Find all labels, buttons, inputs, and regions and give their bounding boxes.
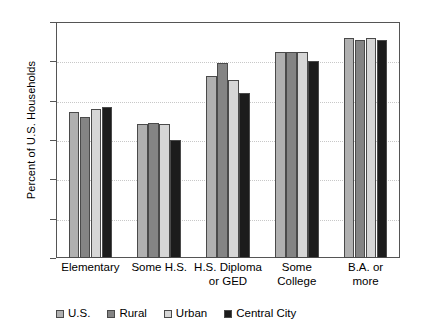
bars-layer <box>56 22 400 258</box>
bar-group <box>331 22 400 258</box>
bar <box>69 112 80 258</box>
x-axis-label: H.S. Diplomaor GED <box>194 261 263 288</box>
legend-label: U.S. <box>68 308 90 320</box>
legend-item-urban[interactable]: Urban <box>164 308 207 320</box>
x-axis-label: B.A. ormore <box>331 261 400 288</box>
bar <box>297 52 308 258</box>
bar <box>377 40 388 258</box>
x-axis-label: Elementary <box>56 261 125 275</box>
legend-swatch-icon <box>164 310 172 318</box>
bar <box>91 109 102 258</box>
bar <box>137 124 148 258</box>
chart-legend: U.S.RuralUrbanCentral City <box>56 305 400 323</box>
bar <box>286 52 297 258</box>
bar <box>344 38 355 258</box>
bar <box>308 61 319 258</box>
bar <box>170 140 181 258</box>
x-axis-label: SomeCollege <box>262 261 331 288</box>
x-axis-label-line: Elementary <box>56 261 125 275</box>
bar-group <box>56 22 125 258</box>
x-axis-label-line: Some <box>262 261 331 275</box>
legend-label: Central City <box>236 308 296 320</box>
x-axis-label-line: or GED <box>194 275 263 289</box>
legend-item-rural[interactable]: Rural <box>107 308 146 320</box>
bar-group <box>125 22 194 258</box>
legend-label: Urban <box>176 308 207 320</box>
bar <box>366 38 377 258</box>
legend-swatch-icon <box>56 310 64 318</box>
x-axis-label: Some H.S. <box>125 261 194 275</box>
bar-group <box>194 22 263 258</box>
legend-item-central-city[interactable]: Central City <box>224 308 296 320</box>
x-axis-label-line: H.S. Diploma <box>194 261 263 275</box>
bar <box>239 93 250 258</box>
x-axis-labels: ElementarySome H.S.H.S. Diplomaor GEDSom… <box>56 261 400 297</box>
legend-swatch-icon <box>107 310 115 318</box>
x-axis-label-line: B.A. or <box>331 261 400 275</box>
bar-chart: Percent of U.S. Households 7075808590951… <box>0 0 428 332</box>
bar <box>217 63 228 258</box>
y-tick-mark-70 <box>50 258 56 259</box>
bar <box>275 52 286 258</box>
y-axis-title: Percent of U.S. Households <box>25 15 37 245</box>
x-axis-label-line: Some H.S. <box>125 261 194 275</box>
bar <box>102 107 113 258</box>
legend-label: Rural <box>119 308 146 320</box>
bar <box>80 117 91 258</box>
legend-item-u-s[interactable]: U.S. <box>56 308 90 320</box>
bar <box>148 123 159 258</box>
bar <box>355 40 366 258</box>
x-axis-label-line: more <box>331 275 400 289</box>
legend-swatch-icon <box>224 310 232 318</box>
bar <box>206 76 217 258</box>
bar <box>159 124 170 258</box>
bar-group <box>262 22 331 258</box>
bar <box>228 80 239 258</box>
x-axis-label-line: College <box>262 275 331 289</box>
